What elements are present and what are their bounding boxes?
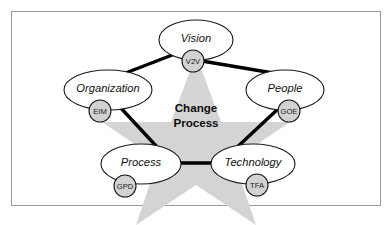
node-technology-label: Technology (225, 156, 283, 168)
node-organization[interactable]: Organization EIM (64, 70, 152, 122)
change-process-diagram: Vision V2V People GOE Technology TFA Pro… (0, 0, 392, 225)
node-people-abbr-label: GOE (281, 107, 298, 116)
node-technology-abbr-label: TFA (250, 181, 265, 190)
center-label-line2: Process (173, 116, 218, 129)
node-vision-abbr-label: V2V (186, 57, 201, 66)
center-label-line1: Change (175, 101, 218, 114)
node-vision-label: Vision (181, 32, 211, 44)
node-people[interactable]: People GOE (246, 70, 324, 122)
node-organization-label: Organization (76, 82, 139, 94)
node-organization-abbr-label: EIM (93, 107, 107, 116)
node-process-label: Process (121, 156, 162, 168)
node-process-abbr-label: GPD (117, 182, 134, 191)
node-people-label: People (268, 82, 303, 94)
diagram-canvas: Vision V2V People GOE Technology TFA Pro… (0, 0, 392, 225)
